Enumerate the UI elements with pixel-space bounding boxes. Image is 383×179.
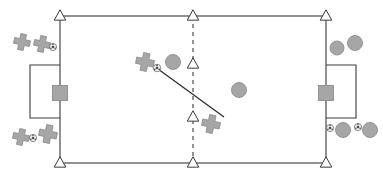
ball-outside-bot-left-center-spot [32,137,35,140]
player-cross-outside-top-left-1-shape [12,32,31,51]
soccer-field-diagram [0,0,383,179]
ball-outside-bot-right-2-spot-3 [357,124,359,126]
goalkeeper-right [319,86,334,101]
ball-outside-bot-right-1-spot-2 [327,128,329,130]
ball-outside-top-left [49,43,56,50]
goalkeeper-left [53,86,68,101]
diagram-canvas [0,0,383,179]
ball-outside-top-left-spot-3 [52,44,54,46]
ball-outside-bot-right-1-spot-3 [329,125,331,127]
ball-outside-bot-left-spot-2 [30,138,32,140]
ball-outside-bot-right-1-center-spot [329,127,332,130]
ball-midfield-in-play-center-spot [156,67,159,70]
player-circle-midfield-upper [166,55,181,70]
ball-outside-bot-left-spot-1 [34,138,36,140]
ball-outside-bot-right-2-spot-2 [355,127,357,129]
player-cross-outside-top-left-2-shape [32,34,51,53]
player-circle-outside-bot-right-2 [363,123,378,138]
player-circle-outside-top-right-2 [348,36,363,51]
player-cross-outside-bot-left-2 [37,123,58,144]
ball-outside-bot-right-1 [326,124,333,131]
player-circle-midfield-lower [232,83,247,98]
player-cross-outside-bot-left-2-shape [37,123,58,144]
ball-outside-bot-right-2-center-spot [357,126,360,129]
ball-midfield-in-play-spot-2 [154,68,156,70]
ball-outside-bot-right-1-spot-1 [331,128,333,130]
ball-outside-top-left-center-spot [52,46,55,49]
player-cross-outside-bot-left-1 [11,127,30,146]
ball-outside-top-left-spot-2 [50,47,52,49]
ball-outside-top-left-spot-1 [54,47,56,49]
player-circle-outside-top-right-1 [330,41,344,55]
cone-top-left [54,10,66,20]
cone-top-right [320,10,332,20]
ball-outside-bot-right-2-spot-1 [359,127,361,129]
player-cross-outside-bot-left-1-shape [11,127,30,146]
ball-midfield-in-play-spot-3 [156,65,158,67]
player-circle-outside-bot-right-1 [336,123,351,138]
cone-top-center [187,10,199,20]
ball-outside-bot-right-2 [354,123,361,130]
ball-midfield-in-play [153,64,161,72]
ball-outside-bot-left-spot-3 [32,135,34,137]
player-cross-outside-top-left-2 [32,34,51,53]
player-cross-outside-top-left-1 [12,32,31,51]
ball-midfield-in-play-spot-1 [158,68,160,70]
ball-outside-bot-left [29,134,36,141]
